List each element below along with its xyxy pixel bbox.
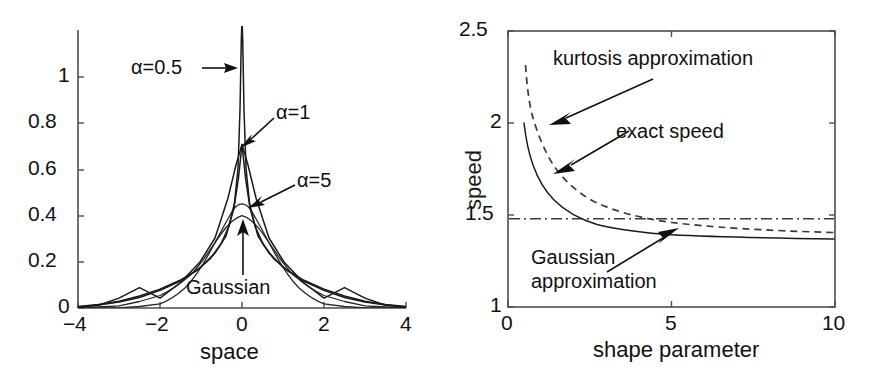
left-xtick-0: 0 bbox=[236, 313, 247, 335]
left-ytick-0.2: 0.2 bbox=[28, 249, 57, 271]
right-plot-panel: 2.5 2 1.5 1 0 5 10 shape parameter speed… bbox=[441, 0, 883, 370]
left-ytick-0.6: 0.6 bbox=[28, 157, 57, 179]
right-xtick-10: 10 bbox=[822, 312, 845, 334]
right-xtick-5: 5 bbox=[665, 312, 676, 334]
right-xaxis-title: shape parameter bbox=[593, 338, 759, 361]
left-xtick-4: 4 bbox=[400, 313, 411, 335]
curve-alpha-05 bbox=[78, 20, 406, 307]
right-ytick-2.5: 2.5 bbox=[459, 18, 488, 40]
annotation-label-alpha-1: α=1 bbox=[276, 102, 310, 123]
annotation-arrow-gaussian bbox=[237, 219, 249, 275]
annotation-label-alpha-5: α=5 bbox=[297, 170, 331, 191]
annotation-label-kurtosis: kurtosis approximation bbox=[553, 48, 753, 69]
left-ytick-0.8: 0.8 bbox=[28, 110, 57, 132]
right-ytick-2: 2 bbox=[490, 110, 501, 132]
right-yaxis-title: speed bbox=[461, 150, 487, 210]
left-xaxis-title: space bbox=[200, 340, 259, 363]
left-ytick-1: 1 bbox=[58, 64, 69, 86]
left-ytick-0.4: 0.4 bbox=[28, 203, 57, 225]
annotation-label-gaussian: Gaussian bbox=[186, 277, 271, 298]
figure-container: 1 0.8 0.6 0.4 0.2 0 −4 −2 0 2 4 space α=… bbox=[0, 0, 883, 370]
annotation-label-exact-speed: exact speed bbox=[616, 121, 724, 142]
left-y-ticks bbox=[78, 77, 84, 308]
right-ytick-1: 1 bbox=[490, 294, 501, 316]
left-xtick-2: 2 bbox=[318, 313, 329, 335]
annotation-label-alpha-05: α=0.5 bbox=[131, 57, 182, 78]
curve-kurtosis-approximation bbox=[526, 65, 835, 233]
left-xtick-neg2: −2 bbox=[145, 313, 169, 335]
annotation-label-gaussian-approximation: Gaussian approximation bbox=[531, 246, 657, 293]
right-xtick-0: 0 bbox=[501, 312, 512, 334]
left-plot-panel: 1 0.8 0.6 0.4 0.2 0 −4 −2 0 2 4 space α=… bbox=[0, 0, 441, 370]
left-xtick-neg4: −4 bbox=[63, 313, 87, 335]
annotation-arrow-alpha-05 bbox=[202, 63, 238, 73]
annotation-arrow-kurtosis bbox=[549, 79, 653, 125]
